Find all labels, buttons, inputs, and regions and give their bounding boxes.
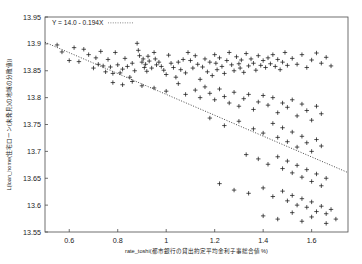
data-point (86, 52, 90, 56)
data-point (261, 214, 265, 218)
data-point (300, 219, 304, 223)
data-point (123, 56, 127, 60)
data-point (309, 149, 313, 153)
data-point (305, 65, 309, 69)
data-point (280, 101, 284, 105)
data-point (200, 65, 204, 69)
data-point (208, 60, 212, 64)
data-point (300, 52, 304, 56)
data-point (319, 204, 323, 208)
y-tick-label: 13.85 (23, 66, 41, 75)
data-point (162, 68, 166, 72)
data-point (246, 64, 250, 68)
data-point (271, 194, 275, 198)
y-tick-label: 13.55 (23, 228, 41, 237)
data-point (188, 58, 192, 62)
data-point (329, 207, 333, 211)
data-point (271, 52, 275, 56)
data-point (290, 171, 294, 175)
data-point (193, 88, 197, 92)
data-point (276, 57, 280, 61)
data-point (212, 52, 216, 56)
x-axis-title: rate_toshi(都市銀行の貸出約定平均金利子事総合値 %) (125, 247, 268, 255)
data-point (166, 53, 170, 57)
data-point (259, 63, 263, 67)
data-point (254, 68, 258, 72)
data-point (157, 60, 161, 64)
data-point (246, 92, 250, 96)
regression-line (45, 42, 348, 172)
data-point (242, 97, 246, 101)
data-point (60, 50, 64, 54)
data-point (237, 119, 241, 123)
data-point (215, 67, 219, 71)
data-point (261, 58, 265, 62)
regression-fit-line (45, 42, 348, 172)
data-point (295, 114, 299, 118)
data-point (176, 81, 180, 85)
equation-annotation: Y = 14.0 - 0.194X (52, 19, 134, 26)
data-point (263, 65, 267, 69)
data-point (283, 50, 287, 54)
data-point (271, 121, 275, 125)
data-point (229, 63, 233, 67)
data-point (319, 61, 323, 65)
y-tick-label: 13.7 (27, 147, 41, 156)
data-point (164, 72, 168, 76)
y-tick-label: 13.8 (27, 93, 41, 102)
y-tick-label: 13.75 (23, 120, 41, 129)
data-point (290, 210, 294, 214)
data-point (196, 62, 200, 66)
data-point (290, 98, 294, 102)
data-point (205, 70, 209, 74)
data-point (147, 59, 151, 63)
data-point (193, 54, 197, 58)
data-point (261, 93, 265, 97)
x-tick-label: 0.6 (64, 236, 74, 245)
data-point (251, 107, 255, 111)
data-point (227, 50, 231, 54)
data-point (309, 118, 313, 122)
data-point (314, 104, 318, 108)
data-point (94, 56, 98, 60)
data-point (153, 57, 157, 61)
data-point (118, 71, 122, 75)
data-point (276, 155, 280, 159)
data-point (191, 66, 195, 70)
data-point (77, 59, 81, 63)
data-point (314, 51, 318, 55)
data-point (334, 217, 338, 221)
data-point (319, 184, 323, 188)
data-point (276, 135, 280, 139)
data-point (238, 66, 242, 70)
data-point (295, 163, 299, 167)
data-point (285, 105, 289, 109)
data-point (271, 95, 275, 99)
data-point (314, 172, 318, 176)
plot-canvas: 0.60.811.21.41.6 13.9513.913.8513.813.75… (0, 0, 362, 264)
data-point (276, 110, 280, 114)
x-tick-label: 1 (164, 236, 168, 245)
scatter-plot-figure: 0.60.811.21.41.6 13.9513.913.8513.813.75… (0, 0, 362, 264)
data-point (268, 62, 272, 66)
data-point (82, 47, 86, 51)
data-point (300, 175, 304, 179)
data-point (217, 87, 221, 91)
data-point (324, 221, 328, 225)
data-point (295, 62, 299, 66)
y-tick-label: 13.65 (23, 174, 41, 183)
data-point (290, 56, 294, 60)
data-point (285, 159, 289, 163)
data-point (183, 71, 187, 75)
x-tick-label: 0.8 (113, 236, 123, 245)
data-point (244, 51, 248, 55)
data-point (198, 95, 202, 99)
data-point (295, 145, 299, 149)
data-point (256, 54, 260, 58)
data-point (300, 134, 304, 138)
data-point (324, 212, 328, 216)
data-point (305, 167, 309, 171)
data-point (305, 108, 309, 112)
data-point (285, 140, 289, 144)
data-point (183, 92, 187, 96)
